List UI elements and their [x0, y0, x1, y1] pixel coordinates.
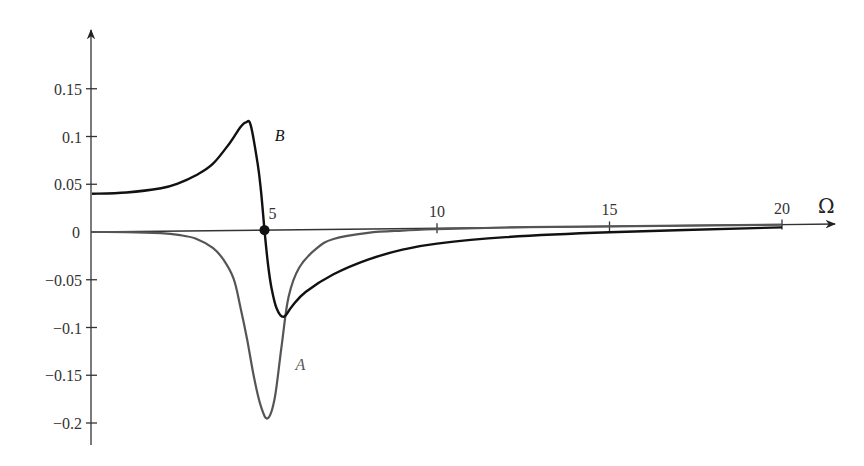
- y-tick-label: −0.15: [45, 367, 82, 384]
- y-tick-label: 0: [72, 224, 80, 241]
- y-tick-label: −0.2: [53, 415, 82, 432]
- curve-label-a: A: [295, 356, 306, 373]
- x-tick-label: 20: [774, 200, 790, 217]
- x-axis-label: Ω: [818, 194, 835, 218]
- y-tick-label: 0.05: [54, 176, 82, 193]
- zero-crossing-marker: [260, 225, 270, 235]
- y-tick-label: −0.1: [53, 320, 82, 337]
- x-tick-label: 10: [429, 203, 445, 220]
- x-tick-label: 5: [269, 205, 277, 222]
- y-axis: 0.150.10.050−0.05−0.1−0.15−0.2: [45, 30, 97, 445]
- curve-label-b: B: [275, 127, 285, 144]
- y-ticks: 0.150.10.050−0.05−0.1−0.15−0.2: [45, 81, 97, 432]
- x-tick-label: 15: [602, 201, 618, 218]
- y-tick-label: 0.1: [62, 129, 82, 146]
- y-tick-label: 0.15: [54, 81, 82, 98]
- chart: 0.150.10.050−0.05−0.1−0.15−0.2 5101520 Ω…: [0, 0, 864, 466]
- series-a-curve: [92, 225, 782, 419]
- series-layer: [92, 121, 782, 419]
- y-tick-label: −0.05: [45, 272, 82, 289]
